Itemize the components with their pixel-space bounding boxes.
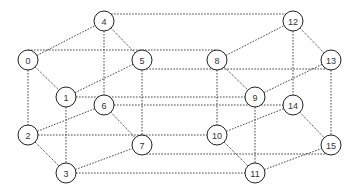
edge-0-4 [37, 26, 95, 56]
node-label: 8 [214, 56, 219, 66]
node-label: 3 [63, 169, 68, 179]
node-2: 2 [18, 125, 38, 145]
node-5: 5 [132, 50, 152, 70]
node-4: 4 [94, 11, 114, 31]
node-label: 9 [252, 93, 257, 103]
node-label: 6 [101, 101, 106, 111]
node-label: 14 [288, 101, 298, 111]
edge-3-7 [75, 148, 132, 169]
edge-8-12 [226, 26, 284, 56]
node-label: 7 [139, 141, 144, 151]
edge-11-15 [264, 148, 321, 169]
node-label: 0 [25, 56, 30, 66]
node-7: 7 [132, 135, 152, 155]
node-label: 10 [212, 131, 222, 141]
edge-8-9 [224, 67, 248, 90]
node-label: 13 [326, 56, 336, 66]
node-label: 12 [288, 17, 298, 27]
node-1: 1 [56, 87, 76, 107]
hypercube-diagram: 0123456789101112131415 [0, 0, 355, 194]
node-3: 3 [56, 163, 76, 183]
node-label: 4 [101, 17, 106, 27]
node-label: 1 [63, 93, 68, 103]
node-12: 12 [283, 11, 303, 31]
node-6: 6 [94, 95, 114, 115]
edge-2-3 [35, 142, 59, 166]
node-label: 15 [326, 141, 336, 151]
edge-14-15 [300, 112, 324, 138]
edge-10-14 [226, 109, 283, 132]
edge-0-1 [35, 67, 59, 90]
node-11: 11 [245, 163, 265, 183]
node-label: 11 [250, 169, 259, 179]
node-9: 9 [245, 87, 265, 107]
edge-4-5 [111, 28, 135, 53]
node-14: 14 [283, 95, 303, 115]
node-label: 2 [25, 131, 30, 141]
node-10: 10 [207, 125, 227, 145]
edge-6-7 [111, 112, 135, 138]
node-label: 5 [139, 56, 144, 66]
node-15: 15 [321, 135, 341, 155]
node-0: 0 [18, 50, 38, 70]
edge-2-6 [37, 109, 94, 132]
node-13: 13 [321, 50, 341, 70]
node-8: 8 [207, 50, 227, 70]
edge-12-13 [300, 28, 324, 53]
